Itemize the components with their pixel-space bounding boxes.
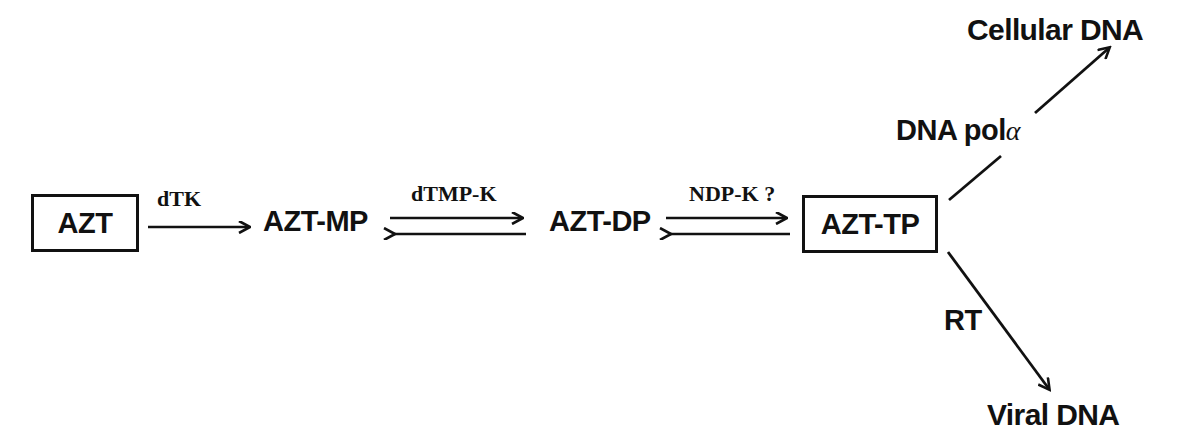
branch-enzyme-dna-pol-alpha-text: DNA pol bbox=[896, 114, 1006, 146]
branch-enzyme-dna-pol-alpha: DNA polα bbox=[896, 116, 1020, 145]
node-azt-tp[interactable]: AZT-TP bbox=[802, 195, 938, 253]
product-viral-dna: Viral DNA bbox=[987, 400, 1119, 430]
pathway-diagram: AZT dTK AZT-MP dTMP-K AZT-DP NDP-K ? AZT… bbox=[0, 0, 1181, 447]
product-cellular-dna: Cellular DNA bbox=[967, 15, 1143, 45]
node-azt-mp[interactable]: AZT-MP bbox=[263, 207, 368, 236]
node-azt-tp-label: AZT-TP bbox=[821, 210, 920, 239]
enzyme-label-dtk: dTK bbox=[157, 188, 201, 210]
node-azt-dp[interactable]: AZT-DP bbox=[549, 207, 651, 236]
node-azt-label: AZT bbox=[58, 209, 113, 238]
node-azt[interactable]: AZT bbox=[31, 194, 139, 252]
enzyme-label-ndp-k: NDP-K ? bbox=[689, 183, 775, 205]
arrow-branch-cellular-stem bbox=[949, 156, 1001, 200]
arrow-branch-cellular-head bbox=[1035, 48, 1109, 113]
branch-enzyme-rt: RT bbox=[944, 306, 982, 335]
enzyme-label-dtmp-k: dTMP-K bbox=[411, 183, 497, 205]
greek-alpha-symbol: α bbox=[1006, 115, 1020, 146]
